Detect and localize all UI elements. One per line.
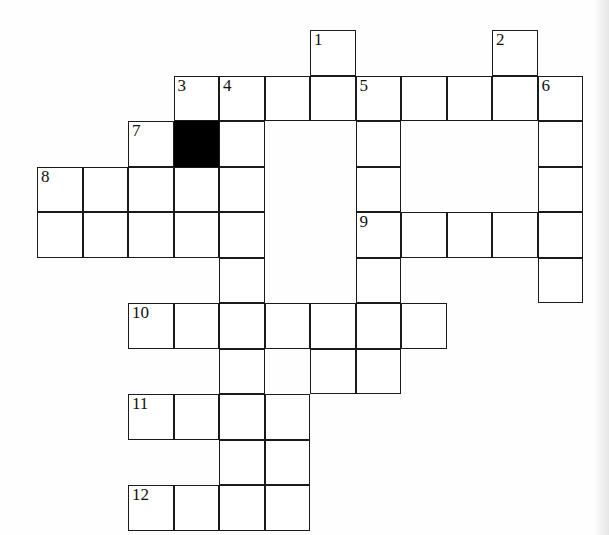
crossword-cell[interactable]: [492, 76, 538, 122]
crossword-cell[interactable]: [265, 303, 311, 349]
crossword-cell[interactable]: [174, 303, 220, 349]
crossword-cell[interactable]: [492, 212, 538, 258]
crossword-page: 123456789101112: [0, 0, 609, 535]
crossword-cell[interactable]: [219, 303, 265, 349]
crossword-cell[interactable]: [265, 394, 311, 440]
crossword-cell[interactable]: [356, 303, 402, 349]
crossword-cell[interactable]: [219, 258, 265, 304]
crossword-cell[interactable]: [265, 76, 311, 122]
clue-number-4: 4: [223, 76, 232, 95]
crossword-cell[interactable]: [83, 212, 129, 258]
clue-number-6: 6: [542, 76, 551, 95]
crossword-cell[interactable]: 6: [538, 76, 584, 122]
crossword-cell[interactable]: 2: [492, 30, 538, 76]
crossword-cell[interactable]: 3: [174, 76, 220, 122]
crossword-cell[interactable]: [219, 394, 265, 440]
crossword-cell[interactable]: [356, 167, 402, 213]
crossword-cell[interactable]: [538, 212, 584, 258]
crossword-cell[interactable]: 11: [128, 394, 174, 440]
crossword-cell[interactable]: [174, 394, 220, 440]
clue-number-1: 1: [314, 30, 323, 49]
crossword-cell[interactable]: [128, 167, 174, 213]
crossword-cell[interactable]: [219, 121, 265, 167]
crossword-cell[interactable]: [538, 121, 584, 167]
crossword-cell[interactable]: 5: [356, 76, 402, 122]
crossword-cell[interactable]: [128, 212, 174, 258]
crossword-cell[interactable]: [401, 76, 447, 122]
crossword-cell[interactable]: [219, 485, 265, 531]
clue-number-11: 11: [132, 394, 148, 413]
crossword-cell[interactable]: [174, 167, 220, 213]
clue-number-8: 8: [41, 167, 50, 186]
crossword-cell[interactable]: [219, 349, 265, 395]
clue-number-2: 2: [496, 30, 505, 49]
crossword-cell[interactable]: [219, 212, 265, 258]
crossword-cell[interactable]: [219, 167, 265, 213]
crossword-cell[interactable]: 4: [219, 76, 265, 122]
crossword-cell[interactable]: [447, 212, 493, 258]
crossword-cell[interactable]: 7: [128, 121, 174, 167]
page-edge-shadow: [595, 0, 609, 535]
crossword-cell[interactable]: [538, 258, 584, 304]
crossword-block-cell: [174, 121, 220, 167]
crossword-cell[interactable]: [356, 258, 402, 304]
clue-number-12: 12: [132, 485, 149, 504]
crossword-cell[interactable]: [310, 303, 356, 349]
crossword-cell[interactable]: [83, 167, 129, 213]
crossword-cell[interactable]: [310, 349, 356, 395]
clue-number-9: 9: [360, 212, 369, 231]
crossword-cell[interactable]: [37, 212, 83, 258]
crossword-grid[interactable]: 123456789101112: [0, 0, 609, 535]
crossword-cell[interactable]: [265, 440, 311, 486]
clue-number-5: 5: [360, 76, 369, 95]
clue-number-10: 10: [132, 303, 149, 322]
crossword-cell[interactable]: [356, 121, 402, 167]
crossword-cell[interactable]: [447, 76, 493, 122]
crossword-cell[interactable]: [538, 167, 584, 213]
crossword-cell[interactable]: [265, 485, 311, 531]
crossword-cell[interactable]: [310, 76, 356, 122]
crossword-cell[interactable]: [401, 303, 447, 349]
crossword-cell[interactable]: 1: [310, 30, 356, 76]
clue-number-7: 7: [132, 121, 141, 140]
clue-number-3: 3: [178, 76, 187, 95]
crossword-cell[interactable]: [401, 212, 447, 258]
crossword-cell[interactable]: [174, 212, 220, 258]
crossword-cell[interactable]: [174, 485, 220, 531]
crossword-cell[interactable]: 12: [128, 485, 174, 531]
crossword-cell[interactable]: 9: [356, 212, 402, 258]
crossword-cell[interactable]: [356, 349, 402, 395]
crossword-cell[interactable]: 10: [128, 303, 174, 349]
crossword-cell[interactable]: [219, 440, 265, 486]
crossword-cell[interactable]: 8: [37, 167, 83, 213]
